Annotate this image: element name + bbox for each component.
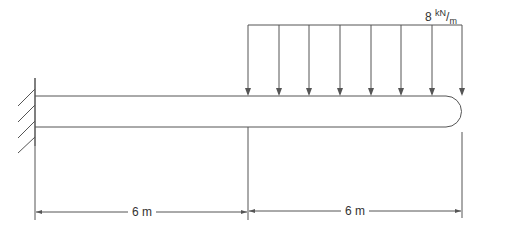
load-arrows [248,25,462,94]
dimension-label-1: 6 m [128,205,156,219]
load-value: 8 [425,10,432,24]
load-unit-numerator: kN [435,8,446,18]
beam-diagram [0,0,508,237]
wall-hatching [18,89,35,153]
dimension-label-2: 6 m [341,204,369,218]
load-label: 8 kN/m [425,8,457,26]
beam [35,96,462,127]
load-unit-denominator: m [449,16,457,26]
